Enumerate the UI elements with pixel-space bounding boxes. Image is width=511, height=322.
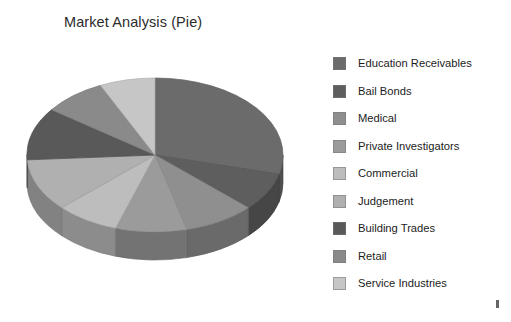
chart-legend: Education Receivables Bail Bonds Medical… (333, 50, 508, 298)
pie-plot-area (18, 62, 308, 272)
legend-item-6[interactable]: Building Trades (333, 215, 508, 243)
legend-item-label: Bail Bonds (358, 85, 412, 98)
legend-swatch-icon (333, 250, 346, 263)
legend-item-label: Commercial (358, 167, 418, 180)
legend-swatch-icon (333, 85, 346, 98)
legend-swatch-icon (333, 167, 346, 180)
pie-chart-figure: Market Analysis (Pie) Education Receivab… (0, 0, 511, 322)
legend-item-label: Retail (358, 250, 387, 263)
legend-item-label: Service Industries (358, 277, 447, 290)
legend-item-7[interactable]: Retail (333, 243, 508, 271)
legend-swatch-icon (333, 140, 346, 153)
legend-item-2[interactable]: Medical (333, 105, 508, 133)
legend-swatch-icon (333, 112, 346, 125)
legend-swatch-icon (333, 277, 346, 290)
pie-top-slices (27, 78, 283, 232)
scan-artifact-mark (496, 300, 499, 308)
legend-item-4[interactable]: Commercial (333, 160, 508, 188)
legend-item-3[interactable]: Private Investigators (333, 133, 508, 161)
pie-svg (18, 62, 308, 272)
legend-item-label: Medical (358, 112, 397, 125)
legend-swatch-icon (333, 195, 346, 208)
legend-item-label: Education Receivables (358, 57, 472, 70)
chart-title: Market Analysis (Pie) (64, 14, 202, 30)
legend-item-label: Building Trades (358, 222, 435, 235)
legend-item-8[interactable]: Service Industries (333, 270, 508, 298)
legend-swatch-icon (333, 222, 346, 235)
pie-slice-side (115, 228, 186, 260)
legend-swatch-icon (333, 57, 346, 70)
legend-item-5[interactable]: Judgement (333, 188, 508, 216)
legend-item-1[interactable]: Bail Bonds (333, 78, 508, 106)
legend-item-label: Judgement (358, 195, 413, 208)
legend-item-label: Private Investigators (358, 140, 459, 153)
legend-item-0[interactable]: Education Receivables (333, 50, 508, 78)
